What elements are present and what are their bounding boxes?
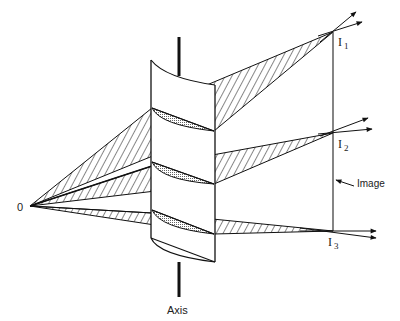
image-point-letter: I [338, 137, 342, 151]
image-point-label-1: I1 [338, 36, 349, 51]
image-point-index: 1 [344, 41, 349, 51]
image-point-index: 3 [334, 241, 339, 251]
image-point-index: 2 [344, 143, 349, 153]
axis-label: Axis [167, 305, 188, 316]
image-pointer-arrow [336, 180, 354, 186]
image-point-label-2: I2 [338, 138, 349, 153]
image-point-letter: I [328, 235, 332, 249]
image-label: Image [357, 179, 385, 189]
object-label: 0 [17, 202, 23, 213]
image-point-letter: I [338, 35, 342, 49]
output-rays-i2 [318, 118, 372, 136]
image-point-label-3: I3 [328, 236, 339, 251]
